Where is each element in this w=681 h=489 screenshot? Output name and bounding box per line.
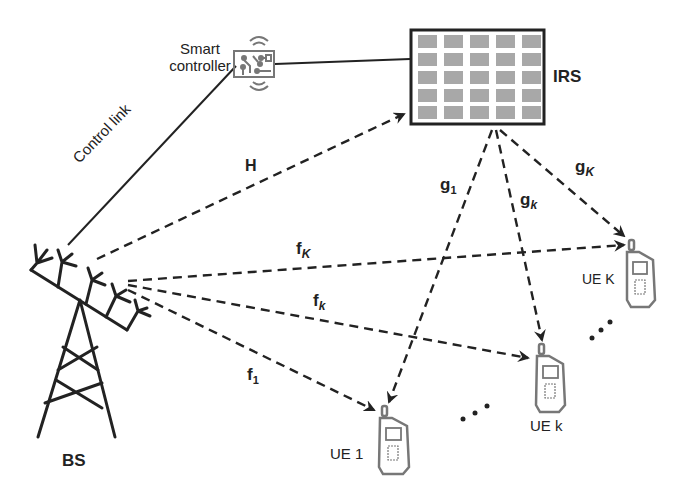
irs-panel	[411, 30, 544, 124]
channel-fk-label: fk	[313, 292, 325, 312]
irs-system-diagram: Smart controller IRS Control link H fK f…	[0, 0, 681, 489]
gK-base: g	[575, 157, 585, 176]
controller-irs-line	[275, 59, 410, 64]
gK-subscript: K	[585, 165, 594, 179]
channel-fK-line	[128, 245, 624, 281]
channel-gK-line	[500, 130, 624, 236]
fk-subscript: k	[319, 299, 326, 313]
channel-H-line	[97, 114, 404, 259]
g1-subscript: 1	[450, 184, 456, 196]
g1-base: g	[440, 175, 450, 194]
gk-base: g	[520, 190, 530, 209]
channel-g1-line	[389, 130, 492, 402]
ue-1-device-icon	[379, 406, 409, 474]
gk-subscript: k	[530, 198, 537, 212]
channel-fK-label: fK	[296, 240, 310, 260]
ue-K-device-icon	[627, 240, 655, 307]
base-station-tower-icon	[31, 245, 150, 437]
bs-label: BS	[62, 452, 86, 469]
ue-K-label: UE K	[582, 272, 615, 286]
channel-fk-line	[128, 285, 528, 358]
f1-subscript: 1	[253, 374, 259, 386]
channel-g1-label: g1	[440, 176, 457, 196]
control-link-line	[68, 66, 236, 245]
controller-label-line1: Smart	[165, 41, 235, 56]
ue-k-label: UE k	[530, 418, 563, 433]
channel-gK-label: gK	[575, 158, 594, 178]
ue-1-label: UE 1	[330, 446, 363, 461]
smart-controller-label: Smart controller	[165, 41, 235, 73]
smart-controller-icon	[234, 37, 274, 90]
channel-H-label: H	[245, 158, 257, 174]
channel-f1-label: f1	[247, 366, 259, 386]
irs-label: IRS	[553, 68, 581, 85]
channel-gk-label: gk	[520, 191, 537, 211]
fK-subscript: K	[302, 247, 311, 261]
controller-label-line2: controller	[165, 58, 235, 73]
ue-k-device-icon	[536, 344, 565, 412]
